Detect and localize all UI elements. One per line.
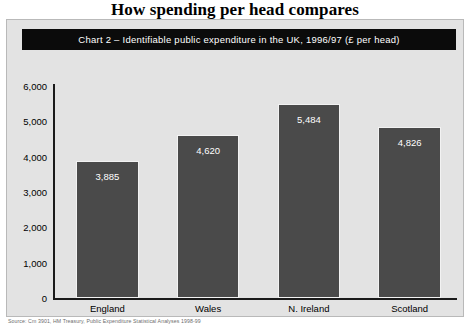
x-axis-category-label: Scotland — [378, 303, 440, 314]
x-axis-line — [53, 298, 457, 300]
y-axis-tick-label: 3,000 — [23, 187, 53, 198]
chart-banner-title: Chart 2 – Identifiable public expenditur… — [22, 29, 456, 50]
bar-value-label: 3,885 — [77, 171, 137, 182]
chart-figure: Chart 2 – Identifiable public expenditur… — [6, 19, 464, 317]
plot-area: 01,0002,0003,0004,0005,0006,0003,8854,62… — [53, 86, 456, 298]
y-axis-tick-label: 2,000 — [23, 222, 53, 233]
y-axis-tick-label: 4,000 — [23, 151, 53, 162]
y-axis-tick-label: 6,000 — [23, 81, 53, 92]
source-note: Source: Cm 3901, HM Treasury, Public Exp… — [8, 318, 201, 324]
bar: 4,620 — [177, 135, 239, 298]
bar-value-label: 5,484 — [279, 114, 339, 125]
bar: 5,484 — [278, 104, 340, 298]
y-axis-tick-label: 5,000 — [23, 116, 53, 127]
y-axis-tick-label: 0 — [42, 293, 53, 304]
x-axis-category-label: England — [76, 303, 138, 314]
bar-value-label: 4,826 — [379, 137, 439, 148]
x-axis-category-label: N. Ireland — [278, 303, 340, 314]
y-axis-tick-label: 1,000 — [23, 257, 53, 268]
bar: 4,826 — [378, 127, 440, 298]
bar-value-label: 4,620 — [178, 145, 238, 156]
x-axis-category-label: Wales — [177, 303, 239, 314]
page-title: How spending per head compares — [0, 0, 470, 19]
bar: 3,885 — [76, 161, 138, 298]
